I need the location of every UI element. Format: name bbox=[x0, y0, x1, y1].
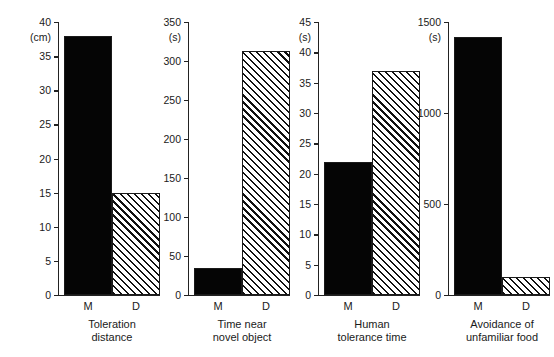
bar-d bbox=[112, 193, 160, 295]
y-axis-tick-label: 150 bbox=[140, 173, 181, 184]
y-axis-tick-label: 1500 bbox=[400, 17, 441, 28]
y-axis-tick-label: 30 bbox=[10, 85, 51, 96]
y-axis-tick-label: 15 bbox=[270, 199, 311, 210]
y-axis-tick bbox=[184, 61, 188, 62]
y-axis-tick bbox=[314, 113, 318, 114]
y-axis-tick bbox=[444, 113, 448, 114]
x-axis-group-label: D bbox=[502, 301, 550, 312]
panel-caption-line-1: Toleration bbox=[42, 318, 182, 331]
y-axis-tick-label: 5 bbox=[10, 256, 51, 267]
y-axis-line bbox=[188, 22, 189, 296]
y-axis-tick bbox=[314, 174, 318, 175]
y-axis-unit-label: (s) bbox=[140, 32, 181, 43]
bar-m bbox=[194, 268, 242, 295]
panel-caption: Avoidance ofunfamiliar food bbox=[432, 318, 554, 343]
y-axis-tick bbox=[54, 159, 58, 160]
y-axis-tick bbox=[314, 83, 318, 84]
panel-caption-line-1: Human bbox=[302, 318, 442, 331]
y-axis-tick-label: 35 bbox=[270, 78, 311, 89]
panel-caption: Tolerationdistance bbox=[42, 318, 182, 343]
bar-m bbox=[64, 36, 112, 295]
panel-caption-line-1: Time near bbox=[172, 318, 312, 331]
y-axis-unit-label: (s) bbox=[400, 32, 441, 43]
y-axis-tick-label: 100 bbox=[140, 212, 181, 223]
y-axis-tick bbox=[184, 22, 188, 23]
y-axis-tick bbox=[444, 204, 448, 205]
y-axis-tick bbox=[184, 256, 188, 257]
y-axis-tick-label: 500 bbox=[400, 199, 441, 210]
y-axis-tick bbox=[314, 143, 318, 144]
y-axis-tick bbox=[314, 234, 318, 235]
y-axis-tick bbox=[54, 261, 58, 262]
x-axis-group-label: M bbox=[324, 301, 372, 312]
y-axis-tick bbox=[54, 124, 58, 125]
x-axis-group-label: D bbox=[242, 301, 290, 312]
y-axis-line bbox=[318, 22, 319, 296]
panel-caption: Time nearnovel object bbox=[172, 318, 312, 343]
panel-caption-line-2: unfamiliar food bbox=[432, 331, 554, 344]
y-axis-tick-label: 1000 bbox=[400, 108, 441, 119]
y-axis-tick-label: 5 bbox=[270, 260, 311, 271]
y-axis-tick bbox=[184, 100, 188, 101]
bar-d bbox=[372, 71, 420, 295]
y-axis-tick bbox=[184, 139, 188, 140]
y-axis-tick-label: 25 bbox=[10, 119, 51, 130]
y-axis-tick-label: 0 bbox=[140, 290, 181, 301]
y-axis-tick bbox=[314, 52, 318, 53]
x-axis-group-label: D bbox=[372, 301, 420, 312]
bar-d bbox=[502, 277, 550, 295]
y-axis-tick bbox=[184, 178, 188, 179]
y-axis-tick-label: 20 bbox=[10, 154, 51, 165]
y-axis-tick bbox=[54, 193, 58, 194]
panel-caption-line-2: distance bbox=[42, 331, 182, 344]
y-axis-tick bbox=[184, 217, 188, 218]
y-axis-unit-label: (cm) bbox=[10, 32, 51, 43]
y-axis-tick-label: 350 bbox=[140, 17, 181, 28]
y-axis-tick-label: 50 bbox=[140, 251, 181, 262]
y-axis-tick-label: 10 bbox=[270, 229, 311, 240]
y-axis-line bbox=[448, 22, 449, 296]
y-axis-tick-label: 20 bbox=[270, 169, 311, 180]
y-axis-tick-label: 40 bbox=[10, 17, 51, 28]
y-axis-tick bbox=[54, 22, 58, 23]
y-axis-tick bbox=[314, 265, 318, 266]
bar-m bbox=[324, 162, 372, 295]
y-axis-tick-label: 0 bbox=[10, 290, 51, 301]
y-axis-tick-label: 40 bbox=[270, 47, 311, 58]
y-axis-unit-label: (s) bbox=[270, 32, 311, 43]
x-axis-group-label: D bbox=[112, 301, 160, 312]
y-axis-tick-label: 250 bbox=[140, 95, 181, 106]
y-axis-tick-label: 15 bbox=[10, 188, 51, 199]
x-axis-baseline bbox=[448, 295, 550, 296]
y-axis-tick bbox=[54, 90, 58, 91]
y-axis-tick-label: 10 bbox=[10, 222, 51, 233]
y-axis-tick-label: 200 bbox=[140, 134, 181, 145]
bar-m bbox=[454, 37, 502, 295]
x-axis-group-label: M bbox=[64, 301, 112, 312]
y-axis-tick-label: 45 bbox=[270, 17, 311, 28]
y-axis-tick-label: 25 bbox=[270, 138, 311, 149]
x-axis-group-label: M bbox=[454, 301, 502, 312]
y-axis-tick bbox=[314, 204, 318, 205]
x-axis-group-label: M bbox=[194, 301, 242, 312]
y-axis-tick-label: 35 bbox=[10, 51, 51, 62]
panel-caption-line-2: tolerance time bbox=[302, 331, 442, 344]
panel-caption-line-2: novel object bbox=[172, 331, 312, 344]
y-axis-tick bbox=[314, 22, 318, 23]
y-axis-tick-label: 300 bbox=[140, 56, 181, 67]
panel-caption-line-1: Avoidance of bbox=[432, 318, 554, 331]
y-axis-tick bbox=[54, 227, 58, 228]
y-axis-line bbox=[58, 22, 59, 296]
y-axis-tick bbox=[54, 56, 58, 57]
y-axis-tick-label: 30 bbox=[270, 108, 311, 119]
y-axis-tick bbox=[444, 22, 448, 23]
y-axis-tick-label: 0 bbox=[270, 290, 311, 301]
y-axis-tick-label: 0 bbox=[400, 290, 441, 301]
panel-caption: Humantolerance time bbox=[302, 318, 442, 343]
